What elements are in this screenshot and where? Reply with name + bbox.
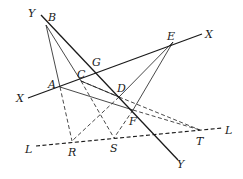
label-l-left: L: [24, 143, 32, 156]
label-point-a: A: [47, 78, 56, 91]
line-c-s: [81, 81, 114, 138]
label-point-g: G: [92, 56, 101, 69]
label-point-b: B: [47, 11, 56, 24]
label-y-top: Y: [28, 7, 37, 20]
line-f-t: [133, 110, 200, 130]
label-x-right: X: [204, 28, 214, 41]
line-a-r: [60, 87, 72, 141]
label-point-c: C: [77, 68, 86, 81]
label-x-left: X: [15, 92, 25, 105]
label-point-e: E: [166, 30, 175, 43]
label-y-bottom: Y: [177, 158, 186, 171]
label-l-right: L: [224, 124, 232, 137]
line-e-d: [119, 42, 173, 97]
line-b-c: [46, 25, 81, 81]
line-l: [36, 128, 222, 146]
label-point-t: T: [196, 135, 205, 148]
label-point-s: S: [110, 142, 118, 155]
label-point-f: F: [128, 115, 137, 128]
geometry-diagram: Y B G C E X A X D F L R S T L Y: [0, 0, 243, 179]
label-point-r: R: [67, 146, 76, 159]
label-point-d: D: [116, 82, 126, 95]
